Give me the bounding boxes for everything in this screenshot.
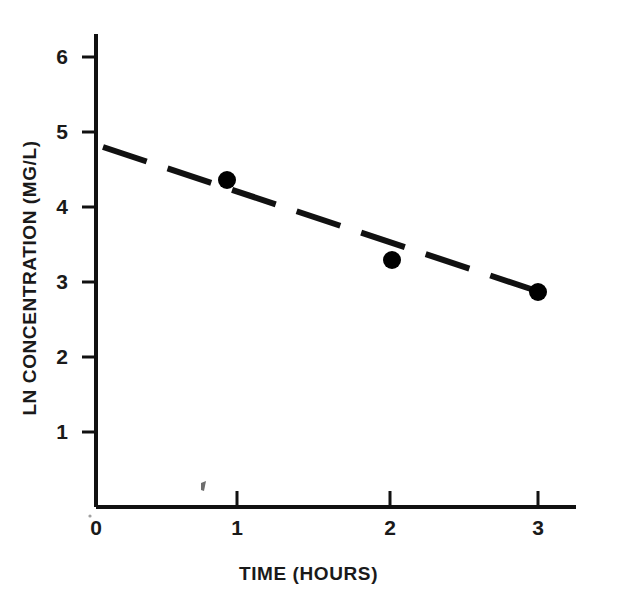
y-axis-title: LN CONCENTRATION (MG/L) — [19, 140, 41, 415]
scan-speck — [201, 481, 206, 491]
x-tick-label-2: 2 — [384, 516, 396, 540]
fit-line-dashed — [103, 147, 540, 292]
x-axis-ticks — [237, 491, 538, 507]
x-axis-title: TIME (HOURS) — [0, 563, 617, 585]
y-axis-ticks — [82, 57, 96, 432]
y-axis-title-container: LN CONCENTRATION (MG/L) — [10, 0, 50, 603]
x-tick-label-0: 0 — [90, 516, 102, 540]
x-tick-label-1: 1 — [231, 516, 243, 540]
chart-figure: 6 5 4 3 2 1 0 1 2 3 TIME (HOURS) LN CONC… — [0, 0, 617, 603]
data-point — [529, 283, 547, 301]
plot-canvas — [0, 0, 617, 603]
data-points — [218, 171, 547, 301]
data-point — [218, 171, 236, 189]
x-tick-label-3: 3 — [532, 516, 544, 540]
data-point — [383, 251, 401, 269]
